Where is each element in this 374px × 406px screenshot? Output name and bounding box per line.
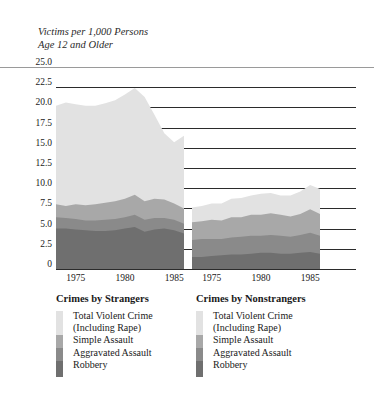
y-tick-label: 15.0 — [12, 139, 52, 149]
y-tick-label: 20.0 — [12, 98, 52, 108]
legend-entry: Robbery — [213, 359, 361, 371]
legend-swatch-segment — [56, 361, 63, 377]
legend-swatch-segment — [196, 348, 203, 361]
y-tick-label: 12.5 — [12, 159, 52, 169]
legend-entry: Aggravated Assault — [213, 347, 361, 359]
y-tick-label: 22.5 — [12, 78, 52, 88]
legend-swatch-segment — [196, 311, 203, 335]
chart-figure: Victims per 1,000 Persons Age 12 and Old… — [0, 0, 374, 406]
legend-entry: Total Violent Crime (Including Rape) — [213, 310, 361, 334]
y-tick-label: 10.0 — [12, 179, 52, 189]
chart-panel — [56, 67, 184, 269]
y-tick-label: 17.5 — [12, 119, 52, 129]
chart-panel — [192, 67, 320, 269]
stacked-area-plot — [56, 67, 184, 269]
x-tick-label: 1975 — [202, 273, 221, 283]
y-tick-label: 0 — [12, 260, 52, 270]
stacked-area-plot — [192, 67, 320, 269]
legend-swatch — [196, 311, 203, 377]
legend-entry: Simple Assault — [213, 334, 361, 346]
legend-swatch — [56, 311, 63, 377]
y-tick-label: 5.0 — [12, 220, 52, 230]
x-tick-label: 1985 — [165, 273, 184, 283]
legend-swatch-segment — [56, 335, 63, 348]
x-tick-label: 1975 — [66, 273, 85, 283]
area-band — [56, 227, 184, 269]
legend-swatch-segment — [196, 335, 203, 348]
y-tick-label: 25.0 — [12, 58, 52, 68]
legend-swatch-segment — [56, 348, 63, 361]
x-tick-label: 1980 — [251, 273, 270, 283]
gridline — [56, 269, 356, 270]
legend-title: Crimes by Nonstrangers — [196, 293, 361, 305]
y-tick-label: 2.5 — [12, 240, 52, 250]
legend: Crimes by NonstrangersTotal Violent Crim… — [196, 293, 361, 371]
legend-swatch-segment — [56, 311, 63, 335]
y-tick-label: 7.5 — [12, 199, 52, 209]
axis-title: Victims per 1,000 Persons Age 12 and Old… — [38, 26, 148, 51]
x-tick-label: 1985 — [301, 273, 320, 283]
legend-swatch-segment — [196, 361, 203, 377]
legend-body: Total Violent Crime (Including Rape)Simp… — [196, 310, 361, 371]
plot-area: 02.55.07.510.012.515.017.520.022.525.0 — [56, 67, 356, 269]
x-tick-label: 1980 — [115, 273, 134, 283]
